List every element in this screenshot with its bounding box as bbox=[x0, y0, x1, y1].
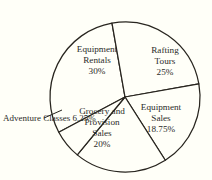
slice-value-equipment-rentals: 30% bbox=[62, 66, 132, 77]
slice-label-equipment-rentals: Equipment Rentals 30% bbox=[62, 44, 132, 77]
slice-label-equipment-sales: Equipment Sales 18.75% bbox=[131, 102, 191, 135]
pie-chart-svg bbox=[0, 0, 212, 180]
pie-chart: Equipment Rentals 30% Rafting Tours 25% … bbox=[0, 0, 212, 180]
slice-value-grocery-and-provision-sales: 20% bbox=[73, 139, 131, 150]
slice-label-adventure-classes-line1: Adventure bbox=[3, 113, 41, 123]
slice-label-adventure-classes-line2: Classes bbox=[43, 113, 70, 123]
slice-label-equipment-rentals-line2: Rentals bbox=[62, 55, 132, 66]
slice-value-equipment-sales: 18.75% bbox=[131, 124, 191, 135]
slice-label-equipment-sales-line2: Sales bbox=[131, 113, 191, 124]
slice-label-rafting-tours-line2: Tours bbox=[139, 56, 191, 67]
slice-label-equipment-rentals-line1: Equipment bbox=[62, 44, 132, 55]
slice-label-rafting-tours-line1: Rafting bbox=[139, 45, 191, 56]
slice-value-rafting-tours: 25% bbox=[139, 67, 191, 78]
slice-label-adventure-classes: Adventure Classes 6.25% bbox=[3, 113, 55, 124]
slice-label-rafting-tours: Rafting Tours 25% bbox=[139, 45, 191, 78]
slice-label-equipment-sales-line1: Equipment bbox=[131, 102, 191, 113]
slice-label-grocery-line3: Sales bbox=[73, 128, 131, 139]
slice-value-adventure-classes: 6.25% bbox=[73, 113, 96, 123]
